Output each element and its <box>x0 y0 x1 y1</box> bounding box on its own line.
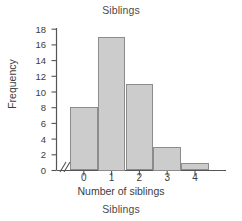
bar-4[interactable] <box>181 163 209 171</box>
y-axis-title: Frequency <box>6 39 18 129</box>
bar-1[interactable] <box>98 37 126 171</box>
plot-area: 0 2 4 6 8 10 12 14 16 18 0 1 2 3 4 Frequ… <box>0 0 242 221</box>
x-axis-title: Number of siblings <box>0 185 242 197</box>
x-tick-label: 1 <box>102 172 122 183</box>
x-tick-label: 0 <box>74 172 94 183</box>
bar-2[interactable] <box>126 84 154 171</box>
figure-bottom-caption: Siblings <box>0 203 242 215</box>
bar-0[interactable] <box>70 107 98 170</box>
x-tick-label: 3 <box>157 172 177 183</box>
x-tick-label: 4 <box>185 172 205 183</box>
x-tick-label: 2 <box>129 172 149 183</box>
bar-3[interactable] <box>153 147 181 171</box>
histogram-figure: Siblings <box>0 0 242 221</box>
